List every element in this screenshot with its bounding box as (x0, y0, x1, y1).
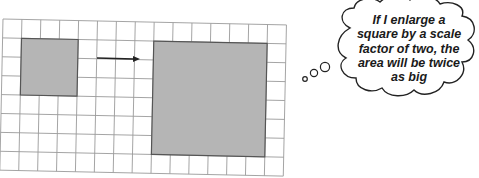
grid-line-horizontal (3, 19, 286, 25)
large-square (151, 41, 267, 157)
bubble-line-2: square by a scale (350, 27, 468, 41)
thought-trail-circle (303, 77, 308, 82)
square-grid (0, 19, 286, 176)
grid-line-horizontal (0, 170, 283, 176)
bubble-line-5: as big (350, 70, 468, 84)
arrow-head (133, 56, 140, 62)
thought-trail-circle (310, 69, 317, 76)
bubble-line-4: area will be twice (350, 56, 468, 70)
thought-trail (303, 62, 330, 81)
small-square (20, 38, 78, 96)
bubble-line-1: If I enlarge a (350, 13, 468, 27)
thought-bubble-text: If I enlarge a square by a scale factor … (350, 13, 468, 84)
thought-trail-circle (320, 62, 329, 71)
bubble-line-3: factor of two, the (350, 42, 468, 56)
